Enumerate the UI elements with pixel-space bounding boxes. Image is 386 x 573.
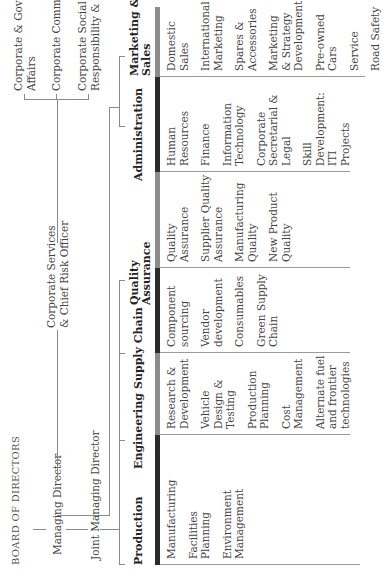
list-item: ManufacturingQuality [233,172,258,262]
dept-quality-line2: Assurance [141,241,154,305]
bracket-tick [56,94,57,100]
list-item: HumanResources [165,78,190,166]
joint-managing-director: Joint Managing Director [89,430,102,560]
bracket [119,281,120,565]
list-item: InformationTechnology [221,78,246,166]
list-item: Consumables [233,269,246,347]
corporate-communications: Corporate Communications [50,0,63,91]
connector [57,100,58,243]
connector [100,529,119,530]
bracket-tick [119,564,125,565]
dept-marketing-line2: Sales [141,44,154,76]
list-item: Pre-owned Cars [314,1,339,71]
list-item: CorporateSecretarial &Legal [255,78,293,166]
bar-quality [155,172,160,268]
bar-marketing [155,7,160,77]
bar-production [155,435,160,565]
list-item: Manufacturing [165,439,178,559]
bracket [119,57,120,127]
bracket-tick [119,56,125,57]
bar-engineering [155,353,160,435]
list-item: Marketing& StrategyDevelopment [267,1,305,71]
board-of-directors: BOARD OF DIRECTORS [10,436,21,565]
bracket-tick [119,353,125,354]
list-item: SkillDevelopment: ITIProjects [301,78,351,166]
list-item: Road Safety [369,1,382,71]
connector [33,529,46,530]
connector [66,529,88,530]
quality-items: QualityAssurance Supplier QualityAssuran… [165,172,301,262]
bracket-tick [88,94,89,100]
list-item: Vehicle Design &Testing [199,353,237,429]
list-item: New ProductQuality [267,172,292,262]
bracket-tick [24,94,25,100]
list-item: Vendordevelopment [199,269,224,347]
production-items: Manufacturing FacilitiesPlanning Environ… [165,439,255,559]
list-item: EnvironmentManagement [221,439,246,559]
bracket-tick [119,126,125,127]
list-item: Supplier QualityAssurance [199,172,224,262]
list-item: Componentsourcing [165,269,190,347]
csr-1: Corporate Social [76,1,89,91]
list-item: ProductionPlanning [246,353,271,429]
connector [109,108,110,516]
engineering-items: Research &Development Vehicle Design &Te… [165,353,360,429]
bracket-tick [119,280,125,281]
list-item: Finance [199,78,212,166]
administration-items: HumanResources Finance InformationTechno… [165,78,360,166]
bar-administration [155,77,160,172]
list-item: Spares &Accessories [233,1,258,71]
list-item: Green SupplyChain [255,269,280,347]
dept-engineering: Engineering [133,393,146,469]
csr-2: Responsibility & Sustainability [89,0,102,91]
list-item: Alternate fueland frontiertechnologies [314,353,352,429]
list-item: Domestic Sales [165,1,190,71]
corporate-govt-affairs-2: Affairs [25,56,38,91]
list-item: FacilitiesPlanning [187,439,212,559]
marketing-items: Domestic Sales InternationalMarketing Sp… [165,1,386,71]
list-item: InternationalMarketing [199,1,224,71]
list-item: Research &Development [165,353,190,429]
dept-production: Production [133,497,146,565]
list-item: QualityAssurance [165,172,190,262]
corporate-govt-affairs-1: Corporate & Government [12,0,25,91]
corporate-services-line2: & Chief Risk Officer [58,221,71,328]
connector [109,107,119,108]
connector [57,330,58,477]
corporate-services-line1: Corporate Services [45,225,58,328]
list-item: Service [348,1,361,71]
bar-supply-chain [155,268,160,353]
list-item: CostManagement [280,353,305,429]
supply-chain-items: Componentsourcing Vendordevelopment Cons… [165,269,289,347]
dept-supply-chain: Supply Chain [133,307,146,389]
bracket-tick [119,440,125,441]
dept-administration: Administration [133,88,146,181]
